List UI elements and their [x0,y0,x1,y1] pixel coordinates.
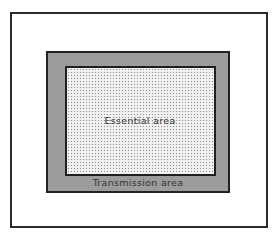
transmission-area-label: Transmission area [93,177,184,188]
essential-area-label: Essential area [105,115,176,126]
